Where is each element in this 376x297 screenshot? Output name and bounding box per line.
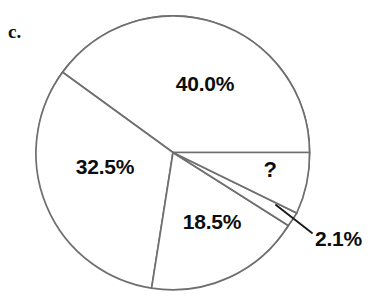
slice-label-2-1: 2.1% (315, 228, 362, 249)
slice-label-unknown: ? (263, 159, 276, 181)
pie-chart-graphic (0, 0, 376, 297)
slice-label-40: 40.0% (176, 73, 235, 94)
pie-chart-figure: c. 40.0% 32.5% 18.5% ? 2.1% (0, 0, 376, 297)
slice-label-32-5: 32.5% (76, 156, 135, 177)
panel-label: c. (8, 22, 21, 41)
slice-label-18-5: 18.5% (183, 211, 242, 232)
